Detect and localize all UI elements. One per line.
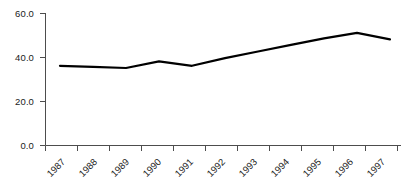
y-axis-label-60: 60.0 bbox=[0, 8, 34, 19]
y-axis-ticks bbox=[40, 14, 46, 146]
x-axis-ticks bbox=[46, 146, 398, 152]
y-axis-label-40: 40.0 bbox=[0, 52, 34, 63]
line-chart: 60.0 40.0 20.0 0.0 1987 1988 1989 1990 1… bbox=[0, 0, 420, 188]
y-axis-label-20: 20.0 bbox=[0, 96, 34, 107]
data-series-line bbox=[60, 33, 390, 68]
y-axis-label-0: 0.0 bbox=[0, 140, 34, 151]
